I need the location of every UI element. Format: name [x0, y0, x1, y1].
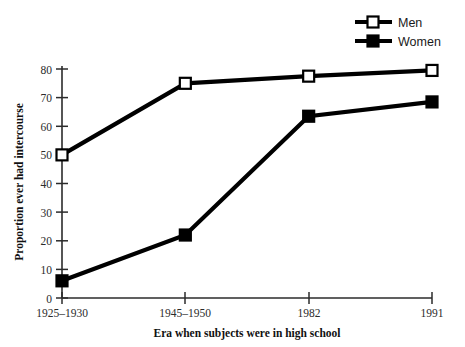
y-tick-label-60: 60	[41, 121, 53, 133]
legend-entry-men: Men	[355, 16, 422, 30]
series-layer	[57, 65, 438, 286]
series-line-women	[62, 102, 432, 281]
y-tick-label-40: 40	[41, 178, 53, 190]
data-point-men-3	[427, 65, 438, 76]
data-point-women-2	[303, 111, 314, 122]
y-axis: 80 70 60 50 40 30 20 10 0 Proportion eve…	[13, 64, 68, 305]
y-tick-label-50: 50	[41, 149, 53, 161]
data-point-men-0	[57, 149, 68, 160]
x-axis: 1925–1930 1945–1950 1982 1991 Era when s…	[36, 292, 444, 340]
y-tick-label-80: 80	[41, 64, 53, 76]
data-point-men-1	[180, 78, 191, 89]
chart-figure: Men Women 80 70 60 50	[0, 0, 465, 347]
data-point-women-0	[57, 275, 68, 286]
open-square-icon	[368, 17, 379, 28]
x-tick-label-2: 1982	[298, 307, 321, 319]
y-tick-label-70: 70	[41, 92, 53, 104]
filled-square-icon	[368, 36, 379, 47]
x-tick-label-1: 1945–1950	[159, 307, 211, 319]
data-point-men-2	[303, 71, 314, 82]
x-axis-title: Era when subjects were in high school	[154, 327, 341, 340]
series-line-men	[62, 70, 432, 154]
chart-legend: Men Women	[355, 16, 441, 49]
legend-label-women: Women	[398, 35, 441, 49]
y-tick-label-20: 20	[41, 235, 53, 247]
x-tick-label-3: 1991	[421, 307, 444, 319]
data-point-women-1	[180, 230, 191, 241]
line-chart-svg: Men Women 80 70 60 50	[0, 0, 465, 347]
data-point-women-3	[427, 96, 438, 107]
legend-entry-women: Women	[355, 35, 441, 49]
y-axis-title: Proportion ever had intercourse	[13, 103, 26, 260]
legend-label-men: Men	[398, 16, 422, 30]
y-tick-label-30: 30	[41, 207, 53, 219]
series-men	[57, 65, 438, 160]
y-tick-label-10: 10	[41, 264, 53, 276]
x-tick-label-0: 1925–1930	[36, 307, 88, 319]
y-tick-label-0: 0	[46, 293, 52, 305]
